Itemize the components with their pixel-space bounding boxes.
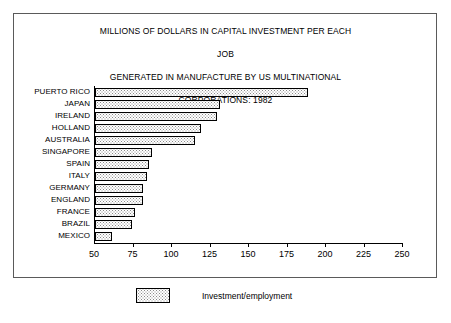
category-label: BRAZIL — [0, 218, 90, 230]
axis-tick-label: 100 — [156, 249, 186, 259]
bar-series — [95, 87, 415, 243]
bar — [95, 112, 217, 121]
chart-title-line-3: GENERATED IN MANUFACTURE BY US MULTINATI… — [0, 72, 451, 84]
bar — [95, 220, 132, 229]
bar-row — [95, 183, 415, 195]
axis-tick — [325, 243, 326, 247]
legend-swatch-icon — [136, 288, 170, 303]
bar-row — [95, 219, 415, 231]
category-label: FRANCE — [0, 206, 90, 218]
axis-tick — [364, 243, 365, 247]
bar — [95, 232, 112, 241]
axis-tick-label: 50 — [79, 249, 109, 259]
axis-tick-label: 250 — [387, 249, 417, 259]
bar — [95, 196, 143, 205]
category-label: ITALY — [0, 170, 90, 182]
category-label: SPAIN — [0, 158, 90, 170]
axis-tick — [210, 243, 211, 247]
axis-tick-label: 175 — [272, 249, 302, 259]
bar — [95, 208, 135, 217]
category-label: IRELAND — [0, 110, 90, 122]
bar-row — [95, 207, 415, 219]
legend-entry: Investment/employment — [136, 288, 292, 303]
bar-row — [95, 99, 415, 111]
category-label: JAPAN — [0, 98, 90, 110]
plot-area — [94, 86, 415, 254]
chart-title-line-2: JOB — [0, 49, 451, 61]
chart-title-line-1: MILLIONS OF DOLLARS IN CAPITAL INVESTMEN… — [0, 26, 451, 38]
axis-tick-label: 75 — [118, 249, 148, 259]
legend-label: Investment/employment — [202, 291, 292, 301]
axis-tick — [133, 243, 134, 247]
bar — [95, 136, 195, 145]
axis-tick — [402, 243, 403, 247]
value-axis-tick-labels: 5075100125150175200225250 — [94, 249, 424, 263]
bar — [95, 124, 201, 133]
axis-tick-label: 150 — [233, 249, 263, 259]
category-label: AUSTRALIA — [0, 134, 90, 146]
bar-row — [95, 135, 415, 147]
bar — [95, 184, 143, 193]
category-label: SINGAPORE — [0, 146, 90, 158]
category-label: MEXICO — [0, 230, 90, 242]
category-label: ENGLAND — [0, 194, 90, 206]
axis-tick-label: 200 — [310, 249, 340, 259]
bar — [95, 88, 308, 97]
axis-tick — [287, 243, 288, 247]
axis-tick — [171, 243, 172, 247]
axis-tick-label: 125 — [195, 249, 225, 259]
bar-row — [95, 87, 415, 99]
bar-row — [95, 147, 415, 159]
axis-tick-label: 225 — [349, 249, 379, 259]
chart-legend: Investment/employment — [0, 288, 451, 310]
bar — [95, 172, 147, 181]
category-axis-labels: PUERTO RICOJAPANIRELANDHOLLANDAUSTRALIAS… — [0, 86, 90, 244]
bar — [95, 148, 152, 157]
bar-row — [95, 171, 415, 183]
category-label: HOLLAND — [0, 122, 90, 134]
bar-row — [95, 159, 415, 171]
bar — [95, 160, 149, 169]
category-label: PUERTO RICO — [0, 86, 90, 98]
chart-figure: MILLIONS OF DOLLARS IN CAPITAL INVESTMEN… — [0, 0, 451, 323]
axis-tick — [248, 243, 249, 247]
bar-row — [95, 111, 415, 123]
bar-row — [95, 195, 415, 207]
bar — [95, 100, 220, 109]
bar-row — [95, 231, 415, 243]
category-label: GERMANY — [0, 182, 90, 194]
bar-row — [95, 123, 415, 135]
